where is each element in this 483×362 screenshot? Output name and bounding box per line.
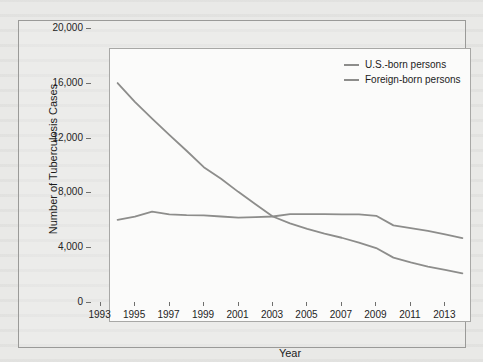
x-axis-tick-mark <box>100 302 101 306</box>
x-axis-tick-label: 2001 <box>220 310 256 320</box>
y-axis-tick-mark <box>86 28 91 29</box>
x-axis-tick-mark <box>238 302 239 306</box>
y-axis-tick-mark <box>86 83 91 84</box>
x-axis-tick-label: 2011 <box>392 310 428 320</box>
chart-legend: U.S.-born personsForeign-born persons <box>344 57 461 87</box>
x-axis-tick-label: 1999 <box>185 310 221 320</box>
figure-root: 04,0008,00012,00016,00020,000 1993199519… <box>0 0 483 362</box>
x-axis-tick-label: 1993 <box>82 310 118 320</box>
x-axis-tick-label: 2005 <box>288 310 324 320</box>
y-axis-title: Number of Tuberculosis Cases <box>47 59 59 259</box>
x-axis-tick-label: 2003 <box>254 310 290 320</box>
y-axis-tick-label: 20,000 <box>17 23 83 33</box>
x-axis-tick-mark <box>375 302 376 306</box>
x-axis-tick-mark <box>444 302 445 306</box>
x-axis-tick-label: 2013 <box>426 310 462 320</box>
legend-line-icon <box>344 64 359 66</box>
x-axis-tick-mark <box>306 302 307 306</box>
x-axis-tick-label: 1995 <box>116 310 152 320</box>
x-axis-tick-mark <box>203 302 204 306</box>
x-axis-tick-mark <box>134 302 135 306</box>
x-axis-title: Year <box>109 347 471 359</box>
y-axis-tick-mark <box>86 192 91 193</box>
x-axis-tick-mark <box>169 302 170 306</box>
y-axis-tick-mark <box>86 247 91 248</box>
legend-label: U.S.-born persons <box>365 59 446 70</box>
legend-item: Foreign-born persons <box>344 72 461 87</box>
x-axis-tick-mark <box>410 302 411 306</box>
x-axis-tick-mark <box>272 302 273 306</box>
y-axis-tick-mark <box>86 302 91 303</box>
y-axis-tick-mark <box>86 138 91 139</box>
series-line-1 <box>118 83 463 273</box>
legend-line-icon <box>344 79 359 81</box>
y-axis-tick-label: 0 <box>17 297 83 307</box>
legend-item: U.S.-born persons <box>344 57 461 72</box>
x-axis-tick-mark <box>341 302 342 306</box>
x-axis-tick-label: 2007 <box>323 310 359 320</box>
series-line-2 <box>118 212 463 238</box>
x-axis-tick-label: 2009 <box>357 310 393 320</box>
figure-outer-frame: 04,0008,00012,00016,00020,000 1993199519… <box>18 20 466 348</box>
legend-label: Foreign-born persons <box>365 74 461 85</box>
x-axis-tick-label: 1997 <box>151 310 187 320</box>
